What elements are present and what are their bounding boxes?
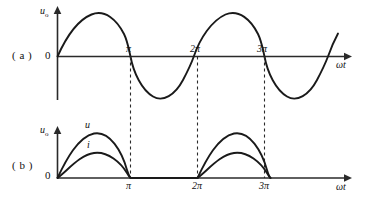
panel-a-tick-pi: π: [126, 44, 131, 54]
panel-a-origin-label: 0: [45, 50, 51, 61]
panel-a-y-axis-arrow: [54, 6, 62, 14]
panel-a-y-axis-label: uo: [40, 6, 49, 19]
panel-b-tick-2pi: 2π: [192, 181, 202, 191]
panel-b-origin-label: 0: [45, 170, 51, 181]
panel-b-tick-pi: π: [126, 181, 131, 191]
panel-a-x-axis-label: ωt: [336, 60, 346, 70]
panel-a-tick-2pi: 2π: [190, 44, 200, 54]
panel-b: [54, 126, 352, 182]
panel-b-i-curve: [58, 153, 271, 178]
panel-b-curve-label-i: i: [87, 140, 90, 150]
panel-b-y-axis-arrow: [54, 126, 62, 134]
panel-b-curve-label-u: u: [85, 120, 90, 130]
panel-b-tick-3pi: 3π: [259, 181, 269, 191]
panel-b-x-axis-label: ωt: [336, 182, 346, 192]
panel-a-tick-3pi: 3π: [257, 44, 267, 54]
panel-b-y-axis-label-sub: o: [45, 130, 49, 138]
panel-a-label: ( a ): [12, 50, 32, 61]
panel-a-y-axis-label-sub: o: [45, 11, 49, 19]
panel-b-label: ( b ): [12, 160, 33, 171]
waveform-figure: [0, 0, 367, 204]
panel-b-y-axis-label: uo: [40, 125, 49, 138]
